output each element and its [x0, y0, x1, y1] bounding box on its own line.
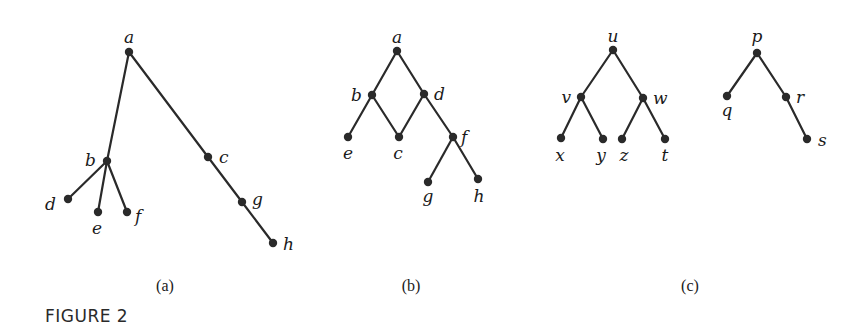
- edge-u-w: [613, 50, 643, 98]
- edge-b-f: [107, 161, 127, 212]
- vertex-d: [64, 195, 72, 203]
- vertex-label-p: p: [752, 26, 763, 46]
- vertex-label-f: f: [459, 127, 470, 147]
- graph-panel-b: abdecfgh(b): [343, 27, 485, 295]
- vertex-a: [393, 47, 401, 55]
- vertex-x: [557, 134, 565, 142]
- vertex-y: [599, 135, 607, 143]
- vertex-e: [94, 208, 102, 216]
- vertex-label-a: a: [124, 27, 134, 47]
- vertex-w: [639, 94, 647, 102]
- vertex-c: [204, 153, 212, 161]
- figure-caption: FIGURE 2: [45, 306, 128, 326]
- edge-b-c: [372, 95, 399, 137]
- vertex-label-g: g: [252, 189, 263, 209]
- vertex-h: [474, 175, 482, 183]
- edge-p-r: [757, 53, 786, 97]
- vertex-label-z: z: [619, 145, 630, 165]
- vertex-g: [238, 198, 246, 206]
- figure-panels: abcdefgh(a)abdecfgh(b)uvwxyztpqrs(c): [45, 26, 827, 295]
- edge-d-c: [399, 94, 424, 137]
- panel-label-c: (c): [681, 277, 699, 295]
- vertex-label-r: r: [796, 87, 805, 107]
- vertex-q: [723, 92, 731, 100]
- vertex-label-y: y: [595, 145, 606, 165]
- vertex-label-c: c: [393, 143, 403, 163]
- vertex-h: [269, 239, 277, 247]
- vertex-p: [753, 49, 761, 57]
- vertex-label-e: e: [343, 143, 353, 163]
- vertex-e: [344, 133, 352, 141]
- vertex-s: [803, 135, 811, 143]
- vertex-a: [125, 48, 133, 56]
- panel-label-a: (a): [156, 277, 174, 295]
- vertex-label-f: f: [133, 206, 144, 226]
- graph-panel-a: abcdefgh(a): [45, 27, 294, 295]
- vertex-label-v: v: [561, 87, 571, 107]
- vertex-label-e: e: [92, 218, 102, 238]
- edge-u-v: [581, 50, 613, 97]
- vertex-t: [661, 135, 669, 143]
- vertex-label-d: d: [434, 84, 445, 104]
- vertex-label-x: x: [555, 145, 565, 165]
- vertex-label-h: h: [283, 234, 294, 254]
- vertex-label-b: b: [351, 85, 362, 105]
- edge-a-d: [397, 51, 424, 94]
- vertex-label-h: h: [474, 186, 485, 206]
- vertex-label-a: a: [392, 27, 402, 47]
- vertex-f: [449, 133, 457, 141]
- edge-a-b: [107, 52, 129, 161]
- vertex-label-c: c: [219, 147, 229, 167]
- vertex-b: [368, 91, 376, 99]
- vertex-b: [103, 157, 111, 165]
- figure-canvas: abcdefgh(a)abdecfgh(b)uvwxyztpqrs(c) FIG…: [0, 0, 865, 335]
- graph-panel-c: uvwxyztpqrs(c): [555, 26, 827, 295]
- vertex-label-w: w: [653, 88, 668, 108]
- vertex-label-q: q: [722, 100, 733, 120]
- vertex-r: [782, 93, 790, 101]
- vertex-label-d: d: [45, 194, 56, 214]
- vertex-u: [609, 46, 617, 54]
- vertex-z: [618, 135, 626, 143]
- vertex-label-u: u: [608, 26, 619, 46]
- panel-label-b: (b): [402, 277, 421, 295]
- vertex-label-s: s: [818, 130, 827, 150]
- vertex-label-b: b: [85, 150, 96, 170]
- edge-f-g: [428, 137, 453, 182]
- vertex-f: [123, 208, 131, 216]
- vertex-v: [577, 93, 585, 101]
- vertex-label-t: t: [662, 145, 669, 165]
- edge-p-q: [727, 53, 757, 96]
- edge-a-b: [372, 51, 397, 95]
- vertex-label-g: g: [423, 186, 434, 206]
- vertex-d: [420, 90, 428, 98]
- edge-v-y: [581, 97, 603, 139]
- edge-a-c: [129, 52, 208, 157]
- edge-w-z: [622, 98, 643, 139]
- vertex-c: [395, 133, 403, 141]
- vertex-g: [424, 178, 432, 186]
